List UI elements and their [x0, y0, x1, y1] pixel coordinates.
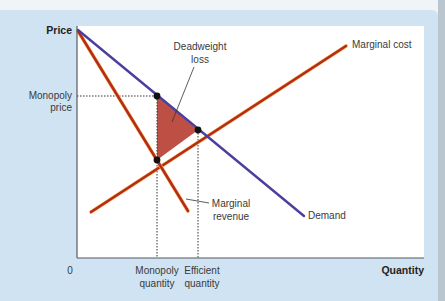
efficient-quantity-label-line2: quantity: [184, 278, 219, 289]
monopoly-quantity-label-line1: Monopoly: [135, 265, 178, 276]
deadweight-loss-label-line2: loss: [191, 54, 209, 65]
origin-label: 0: [67, 265, 73, 276]
y-axis-label: Price: [46, 24, 72, 36]
monopoly-price-label-line1: Monopoly: [29, 90, 72, 101]
monopoly-price-label-line2: price: [50, 102, 72, 113]
deadweight-loss-label-line1: Deadweight: [174, 41, 227, 52]
efficient-point: [195, 127, 202, 134]
demand-label: Demand: [308, 210, 346, 221]
x-axis-label: Quantity: [381, 264, 424, 276]
marginal-revenue-label-line2: revenue: [213, 211, 250, 222]
marginal-cost-label: Marginal cost: [352, 39, 412, 50]
mr-equals-mc-point: [154, 157, 161, 164]
marginal-revenue-label-line1: Marginal: [212, 198, 250, 209]
efficient-quantity-label-line1: Efficient: [184, 265, 220, 276]
monopoly-price-point: [154, 93, 161, 100]
plot-area: [77, 26, 424, 258]
monopoly-quantity-label-line2: quantity: [139, 278, 174, 289]
monopoly-chart: Price Quantity 0 Monopoly price Deadweig…: [0, 0, 445, 301]
